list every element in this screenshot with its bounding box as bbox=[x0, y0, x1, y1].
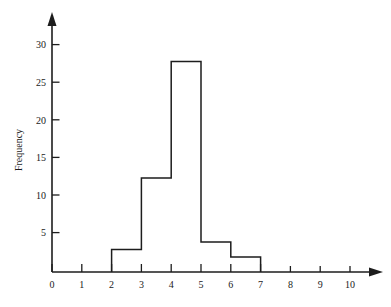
y-axis-title: Frequency bbox=[13, 129, 24, 171]
histogram-bars bbox=[112, 61, 261, 272]
x-tick-label: 2 bbox=[109, 279, 114, 290]
x-axis-arrow-icon bbox=[369, 268, 383, 277]
x-tick-label: 0 bbox=[50, 279, 55, 290]
bar-outline-path bbox=[112, 61, 261, 272]
x-tick-label: 9 bbox=[318, 279, 323, 290]
y-tick-label: 30 bbox=[36, 39, 46, 50]
x-tick-label: 7 bbox=[258, 279, 263, 290]
y-tick-label: 15 bbox=[36, 152, 46, 163]
x-tick-label: 3 bbox=[139, 279, 144, 290]
x-tick-label: 5 bbox=[199, 279, 204, 290]
x-tick-label: 6 bbox=[228, 279, 233, 290]
y-tick-label: 25 bbox=[36, 77, 46, 88]
x-tick-label: 1 bbox=[79, 279, 84, 290]
y-tick-label: 5 bbox=[41, 227, 46, 238]
y-tick-label: 20 bbox=[36, 115, 46, 126]
histogram-chart: 30 25 20 15 10 5 0 1 2 3 4 bbox=[0, 0, 391, 307]
x-tick-label: 4 bbox=[169, 279, 174, 290]
y-tick-label: 10 bbox=[36, 190, 46, 201]
x-axis-ticks bbox=[52, 264, 350, 272]
y-axis-ticks bbox=[52, 45, 60, 233]
x-tick-label: 10 bbox=[345, 279, 355, 290]
chart-canvas: 30 25 20 15 10 5 0 1 2 3 4 bbox=[0, 0, 391, 307]
x-tick-label: 8 bbox=[288, 279, 293, 290]
y-axis-tick-labels: 30 25 20 15 10 5 bbox=[36, 39, 46, 238]
y-axis-arrow-icon bbox=[48, 12, 57, 26]
x-axis-tick-labels: 0 1 2 3 4 5 6 7 8 9 10 bbox=[50, 279, 356, 290]
